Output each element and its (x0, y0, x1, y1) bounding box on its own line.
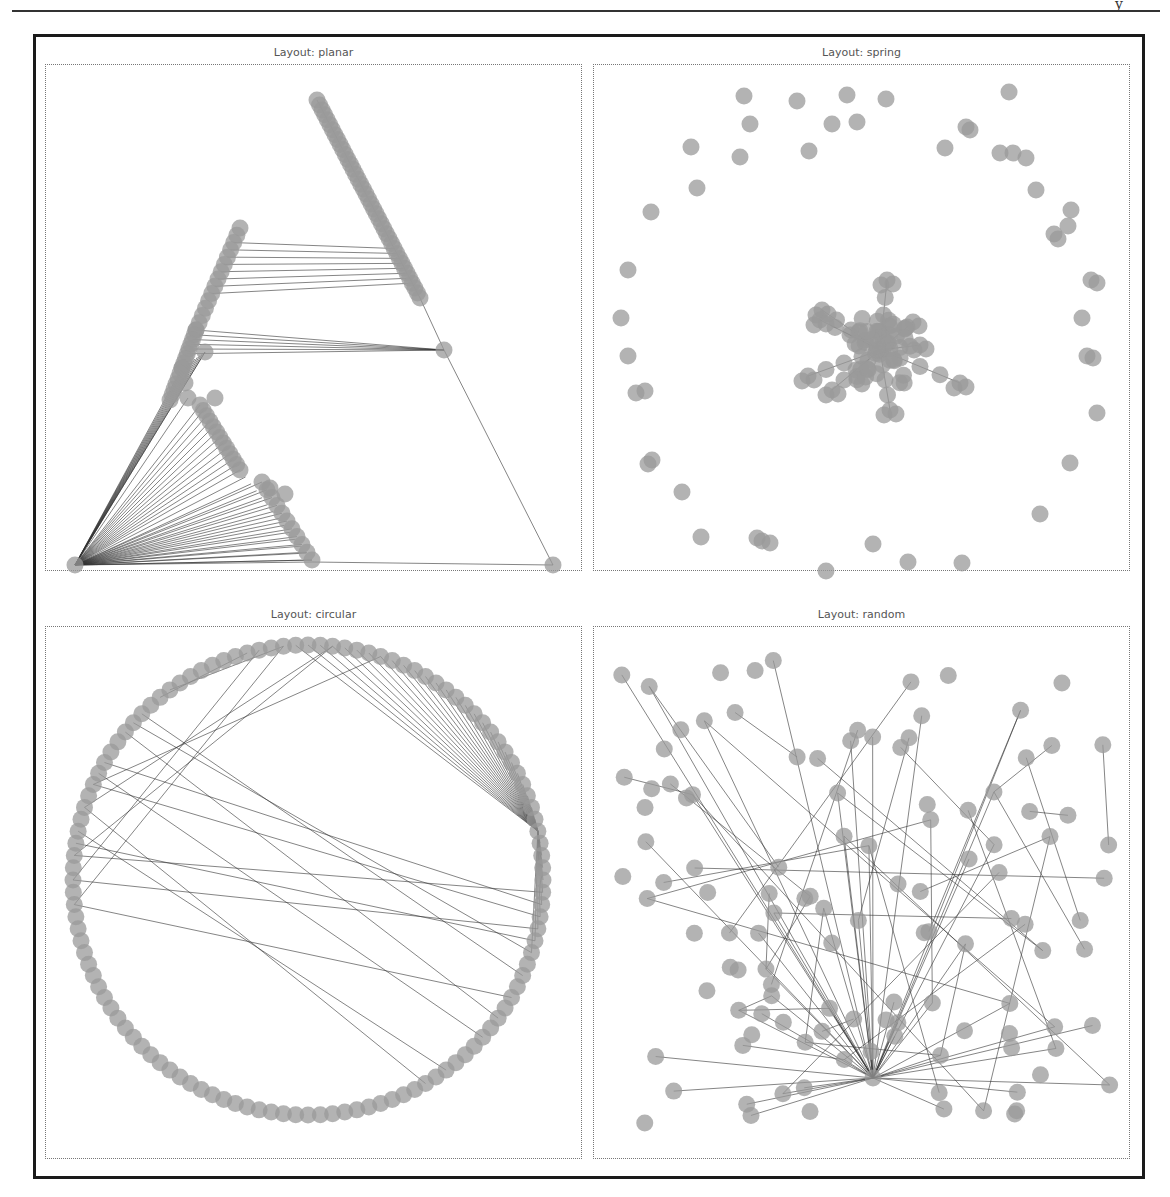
graph-node (738, 1096, 755, 1113)
graph-node (750, 925, 767, 942)
panel-title: Layout: spring (593, 46, 1130, 59)
graph-node (1018, 150, 1035, 167)
graph-edge (312, 562, 553, 565)
graph-node (1028, 182, 1045, 199)
graph-node (693, 529, 710, 546)
panel-random: Layout: random (593, 626, 1130, 1159)
graph-edge (99, 773, 483, 1037)
graph-node (809, 750, 826, 767)
graph-node (722, 959, 739, 976)
graph-node (885, 316, 902, 333)
graph-spring (593, 64, 1130, 571)
graph-node (655, 874, 672, 891)
graph-node (885, 351, 902, 368)
graph-node (916, 924, 933, 941)
graph-node (765, 904, 782, 921)
graph-node (1084, 1017, 1101, 1034)
graph-node (207, 390, 224, 407)
graph-node (775, 1014, 792, 1031)
graph-node (761, 885, 778, 902)
graph-node (876, 407, 893, 424)
graph-node (900, 554, 917, 571)
graph-edge (968, 810, 1056, 1048)
graph-node (878, 91, 895, 108)
graph-node (757, 961, 774, 978)
graph-node (770, 859, 787, 876)
graph-node (957, 935, 974, 952)
graph-node (696, 712, 713, 729)
graph-node (1042, 828, 1059, 845)
graph-node (1009, 1084, 1026, 1101)
graph-node (986, 836, 1003, 853)
graph-node (1043, 737, 1060, 754)
graph-node (662, 775, 679, 792)
graph-node (1003, 1039, 1020, 1056)
graph-node (67, 557, 84, 574)
graph-node (850, 912, 867, 929)
graph-node (732, 149, 749, 166)
graph-node (1060, 218, 1077, 235)
graph-node (836, 1051, 853, 1068)
graph-node (699, 884, 716, 901)
graph-node (684, 786, 701, 803)
graph-node (197, 344, 214, 361)
graph-node (897, 329, 914, 346)
graph-node (954, 555, 971, 572)
graph-node (774, 1085, 791, 1102)
graph-node (849, 722, 866, 739)
graph-node (815, 900, 832, 917)
graph-node (863, 1043, 880, 1060)
graph-edge (212, 283, 413, 293)
graph-edge (227, 257, 399, 258)
graph-node (912, 883, 929, 900)
graph-edge (420, 298, 444, 350)
graph-edge (1103, 745, 1109, 845)
graph-node (672, 721, 689, 738)
graph-edge (873, 944, 966, 1078)
graph-edge (901, 747, 994, 844)
graph-edge (234, 243, 395, 249)
graph-node (818, 387, 835, 404)
graph-node (686, 860, 703, 877)
graph-node (985, 783, 1002, 800)
graph-node (643, 204, 660, 221)
graph-node (940, 667, 957, 684)
graph-edge (381, 657, 538, 832)
graph-node (802, 1103, 819, 1120)
graph-node (956, 1022, 973, 1039)
graph-node (864, 728, 881, 745)
graph-node (879, 387, 896, 404)
graph-node (613, 666, 630, 683)
graph-edge (345, 648, 538, 831)
graph-node (1063, 202, 1080, 219)
graph-node (1003, 910, 1020, 927)
graph-node (636, 1115, 653, 1132)
graph-node (763, 987, 780, 1004)
graph-edge (735, 713, 797, 757)
graph-node (1059, 807, 1076, 824)
graph-node (865, 536, 882, 553)
graph-node (824, 116, 841, 133)
graph-node (889, 1014, 906, 1031)
graph-node (639, 890, 656, 907)
graph-node (962, 122, 979, 139)
panel-planar: Layout: planar (45, 64, 582, 571)
graph-node (789, 93, 806, 110)
graph-circular (45, 626, 582, 1159)
graph-node (1062, 455, 1079, 472)
graph-node (727, 704, 744, 721)
graph-node (1094, 736, 1111, 753)
panel-title: Layout: planar (45, 46, 582, 59)
graph-node (1089, 405, 1106, 422)
graph-node (901, 729, 918, 746)
graph-node (839, 87, 856, 104)
graph-node (1053, 675, 1070, 692)
graph-edge (187, 350, 444, 354)
graph-edge (739, 1008, 830, 1010)
graph-node (913, 707, 930, 724)
graph-node (924, 994, 941, 1011)
graph-node (656, 741, 673, 758)
graph-edge (93, 784, 540, 916)
graph-node (620, 262, 637, 279)
graph-edge (194, 335, 444, 350)
